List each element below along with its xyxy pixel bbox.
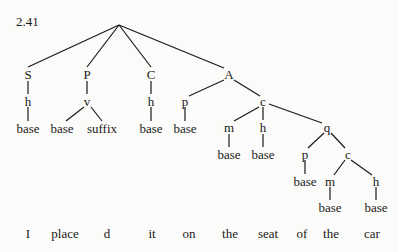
- word: I: [26, 227, 30, 240]
- word: the: [323, 227, 339, 240]
- node-qc-m: m: [325, 175, 335, 188]
- node-A-p-base: base: [173, 122, 196, 135]
- node-A: A: [224, 68, 233, 81]
- node-A-p: p: [182, 95, 189, 108]
- node-qc-h-base: base: [364, 201, 387, 214]
- word: of: [297, 227, 308, 240]
- node-q-p-base: base: [293, 175, 316, 188]
- node-A-c: c: [260, 95, 266, 108]
- node-qc-m-base: base: [318, 201, 341, 214]
- node-P-v: v: [84, 95, 91, 108]
- node-S: S: [24, 68, 31, 81]
- word: car: [364, 227, 380, 240]
- word: seat: [258, 227, 278, 240]
- node-q-c: c: [345, 148, 351, 161]
- node-C-h-base: base: [139, 122, 162, 135]
- node-c-h: h: [260, 121, 267, 134]
- word: place: [51, 227, 78, 240]
- node-C: C: [147, 68, 156, 81]
- node-P-v-suffix: suffix: [87, 122, 117, 135]
- node-P: P: [83, 68, 90, 81]
- node-S-h-base: base: [16, 122, 39, 135]
- tree-diagram: 2.41 S P C A h v h p c base base suf: [0, 0, 399, 252]
- word: on: [183, 227, 196, 240]
- word: it: [148, 227, 155, 240]
- node-qc-h: h: [373, 175, 380, 188]
- node-c-q: q: [324, 121, 331, 134]
- node-C-h: h: [148, 95, 155, 108]
- node-S-h: h: [25, 95, 32, 108]
- node-P-v-base: base: [50, 122, 73, 135]
- word: the: [222, 227, 238, 240]
- node-c-m: m: [224, 121, 234, 134]
- node-c-m-base: base: [217, 148, 240, 161]
- node-c-h-base: base: [251, 148, 274, 161]
- node-q-p: p: [302, 148, 309, 161]
- word: d: [104, 227, 111, 240]
